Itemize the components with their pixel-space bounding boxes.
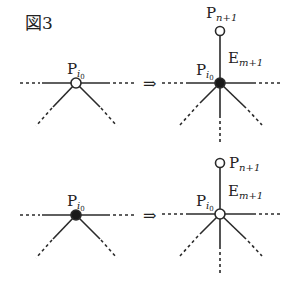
panel-top-after (162, 27, 281, 146)
edge-diag-left-dashed (180, 236, 198, 256)
edge-diag-right-dashed (101, 108, 117, 126)
edge-diag-right-dashed (248, 110, 262, 125)
new-edge-label: Em+1 (228, 182, 263, 201)
node-label-pi0: Pi0 (67, 192, 85, 213)
edge-diag-left-dashed (36, 240, 52, 258)
node-label-pi0: Pi0 (196, 192, 214, 213)
transform-arrow-icon: ⇒ (143, 74, 156, 93)
panel-top-before (20, 78, 135, 126)
panel-bottom-before (20, 210, 135, 258)
node-open-icon (215, 209, 225, 219)
node-filled-icon (215, 78, 225, 88)
transform-arrow-icon: ⇒ (143, 206, 156, 225)
new-vertex-open-icon (216, 159, 225, 168)
edge-diag-left-dashed (36, 108, 52, 126)
node-label-pi0: Pi0 (196, 61, 214, 82)
node-label-pi0: Pi0 (67, 60, 85, 81)
edge-diag-right-dashed (101, 240, 117, 258)
edge-diag-left-dashed (180, 105, 198, 125)
new-vertex-label: Pn+1 (229, 154, 260, 173)
figure-title: 図3 (25, 13, 53, 33)
new-vertex-open-icon (216, 27, 225, 36)
edge-diag-right-dashed (248, 241, 262, 256)
figure-canvas: 図3 Pi0 ⇒ Pn+1 Em+1 Pi0 (0, 0, 299, 300)
panel-bottom-after (162, 159, 281, 277)
new-edge-label: Em+1 (228, 49, 263, 68)
new-vertex-label: Pn+1 (206, 4, 237, 23)
